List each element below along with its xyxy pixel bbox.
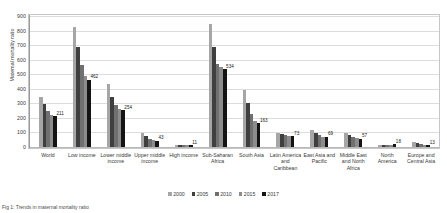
x-axis-label: World: [31, 152, 65, 158]
legend-label: 2005: [197, 191, 209, 197]
x-axis-label: Sub-Saharan Africa: [201, 152, 235, 165]
y-tick-label: 500: [17, 71, 26, 77]
bar: 534: [223, 69, 227, 147]
bar-value-label: 73: [294, 131, 299, 136]
y-tick-label: 800: [17, 28, 26, 34]
legend-swatch-icon: [262, 192, 265, 195]
bar-group: 43: [133, 16, 167, 147]
gridline: [30, 147, 439, 148]
legend-label: 2010: [220, 191, 232, 197]
x-axis-label: Upper middle income: [133, 152, 167, 165]
legend-swatch-icon: [239, 192, 242, 195]
bar-group: 163: [235, 16, 269, 147]
y-tick-label: 700: [17, 42, 26, 48]
legend-swatch-icon: [168, 192, 171, 195]
legend-item[interactable]: 2017: [262, 191, 279, 197]
legend-label: 2017: [267, 191, 279, 197]
bar: 211: [53, 116, 57, 147]
bar: 462: [87, 80, 91, 147]
x-axis-label: Lower middle income: [99, 152, 133, 165]
bar-group: 462: [65, 16, 99, 147]
y-axis-tick-labels: 0100200300400500600700800900: [0, 16, 28, 147]
bar: 73: [291, 136, 295, 147]
bar-group: 69: [302, 16, 336, 147]
bar-group: 211: [31, 16, 65, 147]
x-axis-label: Low income: [65, 152, 99, 158]
legend-swatch-icon: [192, 192, 195, 195]
bar: 18: [393, 144, 397, 147]
x-axis-label: East Asia and Pacific: [302, 152, 336, 165]
bar-group: 57: [336, 16, 370, 147]
y-tick-label: 100: [17, 129, 26, 135]
x-axis-label: South Asia: [235, 152, 269, 158]
bar-value-label: 18: [396, 139, 401, 144]
bar-groups: 21146225443115341637369571813: [31, 16, 438, 147]
y-tick-label: 400: [17, 86, 26, 92]
y-tick-label: 600: [17, 57, 26, 63]
bar: 69: [325, 137, 329, 147]
bar-value-label: 462: [90, 74, 98, 79]
bar: 163: [257, 123, 261, 147]
bar-group: 73: [268, 16, 302, 147]
x-axis-labels: WorldLow incomeLower middle incomeUpper …: [31, 152, 438, 171]
x-axis-label: Middle East and North Africa: [336, 152, 370, 171]
y-tick-label: 300: [17, 100, 26, 106]
y-axis-line: [29, 15, 30, 148]
legend-item[interactable]: 2010: [215, 191, 232, 197]
y-tick-label: 0: [23, 144, 26, 150]
figure-container: Maternal mortality ratio 010020030040050…: [0, 0, 447, 213]
x-axis-label: North America: [370, 152, 404, 165]
figure-caption: Fig 1: Trends in maternal mortality rati…: [2, 204, 89, 210]
bar-group: 13: [404, 16, 438, 147]
legend-item[interactable]: 2000: [168, 191, 185, 197]
y-tick-label: 200: [17, 115, 26, 121]
bar-value-label: 57: [362, 133, 367, 138]
bar: 254: [121, 110, 125, 147]
legend-item[interactable]: 2015: [239, 191, 256, 197]
bar-value-label: 69: [328, 131, 333, 136]
bar-value-label: 163: [260, 118, 268, 123]
chart-legend: 20002005201020152017: [0, 191, 447, 197]
bar-group: 11: [167, 16, 201, 147]
bar-value-label: 211: [56, 111, 63, 116]
x-axis-label: Europe and Central Asia: [404, 152, 438, 165]
legend-label: 2000: [173, 191, 185, 197]
bar: 11: [189, 145, 193, 147]
bar-group: 18: [370, 16, 404, 147]
bar-value-label: 13: [430, 140, 435, 145]
legend-label: 2015: [244, 191, 256, 197]
bar: 57: [359, 139, 363, 147]
bar-value-label: 254: [124, 105, 132, 110]
bar: 43: [155, 141, 159, 147]
bar-group: 534: [201, 16, 235, 147]
y-tick-label: 900: [17, 13, 26, 19]
bar-value-label: 43: [158, 135, 163, 140]
bar-value-label: 11: [192, 140, 197, 145]
legend-item[interactable]: 2005: [192, 191, 209, 197]
legend-swatch-icon: [215, 192, 218, 195]
bar-group: 254: [99, 16, 133, 147]
x-axis-label: Latin America and Caribbean: [268, 152, 302, 171]
bar: 13: [426, 145, 430, 147]
x-axis-label: High income: [167, 152, 201, 158]
bar-value-label: 534: [226, 64, 234, 69]
